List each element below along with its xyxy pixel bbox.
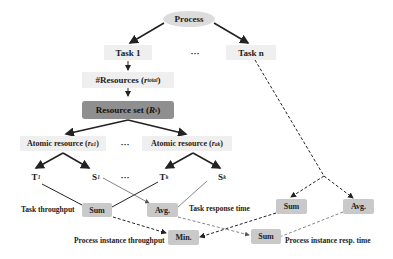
avg-left-label: Avg. (155, 206, 170, 215)
diagram-edges (0, 0, 393, 259)
tk-sub: k (166, 174, 169, 180)
t1-sub: 1 (38, 174, 41, 180)
atomic-ellipsis-text: ··· (120, 139, 129, 149)
resource-set-suffix: ) (157, 105, 160, 115)
sum-bottom-node: Sum (251, 229, 281, 244)
atomic-1-suffix: ) (96, 139, 99, 148)
sum-left-node: Sum (82, 203, 112, 217)
resources-count-node: #Resources (rtotal) (82, 72, 174, 88)
task-throughput-label: Task throughput (21, 205, 75, 214)
tk-node: Tk (156, 171, 172, 183)
sk-sub: k (223, 174, 226, 180)
resources-sub: total (148, 77, 158, 83)
resources-suffix: ) (158, 75, 161, 85)
sum-left-label: Sum (89, 206, 105, 215)
task-ellipsis: ··· (183, 45, 207, 60)
avg-right-label: Avg. (351, 202, 366, 211)
atomic-1-prefix: Atomic resource ( (27, 139, 88, 148)
ts-ellipsis-text: ··· (120, 172, 129, 182)
atomic-resource-k-node: Atomic resource (rak) (142, 136, 232, 151)
avg-left-node: Avg. (147, 203, 178, 217)
min-label: Min. (175, 233, 191, 242)
resource-set-prefix: Resource set ( (96, 105, 149, 115)
atomic-ellipsis: ··· (114, 136, 136, 151)
resources-prefix: #Resources ( (95, 75, 144, 85)
atomic-resource-1-node: Atomic resource (ra1) (20, 136, 106, 151)
task-n-node: Task n (226, 45, 276, 60)
task-response-time-label: Task response time (189, 204, 250, 213)
ts-ellipsis: ··· (116, 171, 134, 183)
sum-bottom-label: Sum (258, 232, 274, 241)
process-instance-resp-time-label: Process instance resp. time (285, 236, 371, 245)
atomic-k-suffix: ) (220, 139, 223, 148)
atomic-k-prefix: Atomic resource ( (151, 139, 212, 148)
task-ellipsis-text: ··· (190, 48, 199, 58)
s1-sub: 1 (97, 174, 100, 180)
t1-node: T1 (28, 171, 44, 183)
s1-node: S1 (88, 171, 104, 183)
task-n-label: Task n (238, 48, 263, 58)
process-label: Process (175, 14, 204, 24)
task-1-node: Task 1 (104, 45, 152, 60)
process-node: Process (163, 11, 215, 27)
resource-set-node: Resource set (Rs) (82, 101, 174, 119)
avg-right-node: Avg. (343, 199, 374, 214)
sum-right-node: Sum (276, 199, 307, 214)
task-1-label: Task 1 (116, 48, 141, 58)
sum-right-label: Sum (284, 202, 300, 211)
sk-node: Sk (214, 171, 230, 183)
process-instance-throughput-label: Process instance throughput (74, 236, 165, 245)
min-node: Min. (168, 230, 199, 245)
